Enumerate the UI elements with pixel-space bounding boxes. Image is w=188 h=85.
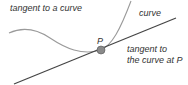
label-tangent-line-1: tangent to	[127, 44, 167, 54]
label-tangent-line-2: the curve at P	[127, 55, 183, 65]
label-curve: curve	[139, 8, 161, 18]
point-p-marker	[97, 46, 105, 54]
label-point-p: P	[97, 36, 103, 46]
label-tangent-to-curve: tangent to a curve	[10, 3, 82, 13]
